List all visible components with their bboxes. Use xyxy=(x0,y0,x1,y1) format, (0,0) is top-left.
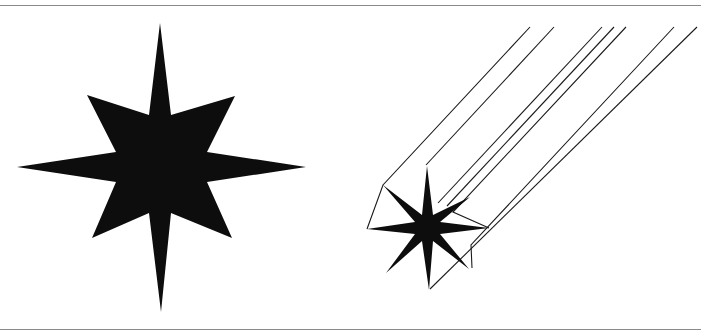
shooting-star-trails xyxy=(367,27,697,289)
star-illustration xyxy=(0,0,713,331)
large-eight-point-star-icon xyxy=(17,23,306,312)
shooting-star-head-icon xyxy=(367,166,489,290)
